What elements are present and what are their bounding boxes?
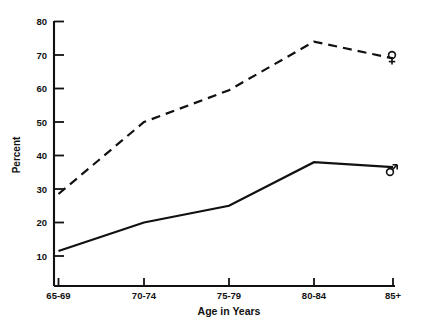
x-axis-title: Age in Years [198, 305, 261, 317]
x-tick-label-70-74: 70-74 [132, 290, 157, 301]
line-chart: 80 70 60 50 40 30 20 10 65-69 70-74 75-7… [0, 0, 425, 332]
series-line-female [59, 42, 394, 194]
y-tick-label-80: 80 [36, 16, 47, 27]
series-line-male [59, 162, 394, 251]
x-axis-ticks [59, 278, 394, 286]
y-axis-tick-labels: 80 70 60 50 40 30 20 10 [36, 16, 47, 262]
y-axis-ticks [54, 22, 64, 257]
y-axis-title: Percent [11, 136, 22, 173]
y-tick-label-50: 50 [36, 117, 47, 128]
x-tick-label-80-84: 80-84 [302, 290, 327, 301]
female-symbol-marker [389, 52, 396, 65]
x-tick-label-85-plus: 85+ [385, 290, 402, 301]
y-tick-label-30: 30 [36, 184, 47, 195]
y-tick-label-20: 20 [36, 217, 47, 228]
y-tick-label-40: 40 [36, 150, 47, 161]
x-tick-label-65-69: 65-69 [46, 290, 70, 301]
y-tick-label-70: 70 [36, 50, 47, 61]
y-tick-label-60: 60 [36, 83, 47, 94]
x-tick-label-75-79: 75-79 [217, 290, 241, 301]
x-axis-tick-labels: 65-69 70-74 75-79 80-84 85+ [46, 290, 401, 301]
chart-container: 80 70 60 50 40 30 20 10 65-69 70-74 75-7… [0, 0, 425, 332]
y-tick-label-10: 10 [36, 251, 47, 262]
